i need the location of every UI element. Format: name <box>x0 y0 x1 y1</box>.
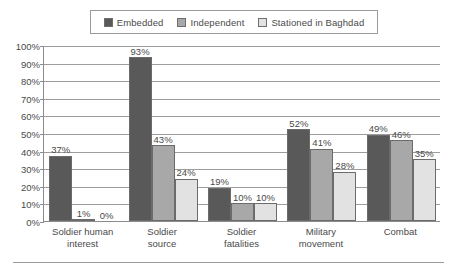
x-axis-category-label-line: Soldier <box>202 226 281 238</box>
x-axis-category-label-line: movement <box>281 238 360 250</box>
bar[interactable] <box>49 156 72 221</box>
y-axis-tick-label: 60% <box>0 111 40 122</box>
x-axis-category-label-line: Soldier human <box>43 226 122 238</box>
bar-value-label: 35% <box>415 149 434 159</box>
bar-value-label: 93% <box>131 47 150 57</box>
legend-item-embedded: Embedded <box>104 17 164 28</box>
bar[interactable] <box>333 172 356 221</box>
bar-slot: 10% <box>231 46 254 221</box>
bar-slot: 28% <box>333 46 356 221</box>
bar-value-label: 0% <box>100 211 114 221</box>
legend-item-stationed-in-baghdad: Stationed in Baghdad <box>258 17 364 28</box>
legend-swatch-icon <box>104 18 113 27</box>
bar-slot: 1% <box>72 46 95 221</box>
bar-group: 19%10%10% <box>203 46 282 221</box>
bar-slot: 35% <box>413 46 436 221</box>
plot-area: 37%1%0%93%43%24%19%10%10%52%41%28%49%46%… <box>43 46 440 222</box>
legend-swatch-icon <box>258 18 267 27</box>
x-axis-category-label: Combat <box>361 226 440 238</box>
bar-value-label: 37% <box>51 145 70 155</box>
bar-slot: 37% <box>49 46 72 221</box>
y-axis-tick-label: 0% <box>0 217 40 228</box>
footer-divider <box>13 262 444 263</box>
bar-slot: 46% <box>390 46 413 221</box>
bar-group: 37%1%0% <box>44 46 123 221</box>
bar-value-label: 43% <box>154 135 173 145</box>
chart-legend: Embedded Independent Stationed in Baghda… <box>90 10 378 34</box>
bar-slot: 24% <box>175 46 198 221</box>
bar[interactable] <box>287 129 310 221</box>
bar[interactable] <box>175 179 198 221</box>
legend-item-label: Independent <box>190 17 244 28</box>
y-axis-tick-label: 90% <box>0 58 40 69</box>
legend-item-label: Stationed in Baghdad <box>271 17 364 28</box>
bar-group: 52%41%28% <box>282 46 361 221</box>
bar-value-label: 46% <box>392 130 411 140</box>
bar[interactable] <box>129 57 152 221</box>
bar-slot: 41% <box>310 46 333 221</box>
bar-value-label: 10% <box>233 193 252 203</box>
bar-group: 49%46%35% <box>362 46 441 221</box>
bar-value-label: 19% <box>210 177 229 187</box>
x-axis-category-label-line: source <box>122 238 201 250</box>
bar-slot: 0% <box>95 46 118 221</box>
y-axis-tick-labels: 100%90%80%70%60%50%40%30%20%10%0% <box>0 40 40 222</box>
y-axis-tick-label: 70% <box>0 93 40 104</box>
bar-slot: 49% <box>367 46 390 221</box>
y-axis-tick-label: 80% <box>0 76 40 87</box>
legend-swatch-icon <box>177 18 186 27</box>
bar-value-label: 28% <box>335 161 354 171</box>
x-axis-category-label: Soldierfatalities <box>202 226 281 250</box>
bar-groups: 37%1%0%93%43%24%19%10%10%52%41%28%49%46%… <box>44 46 440 221</box>
x-axis-category-label-line: Combat <box>361 226 440 238</box>
bar-value-label: 1% <box>77 209 91 219</box>
bar[interactable] <box>231 203 254 221</box>
x-axis-category-label: Militarymovement <box>281 226 360 250</box>
legend-item-independent: Independent <box>177 17 244 28</box>
bar-value-label: 41% <box>312 138 331 148</box>
grouped-bar-chart: 100%90%80%70%60%50%40%30%20%10%0% 37%1%0… <box>0 40 457 230</box>
bar-slot: 43% <box>152 46 175 221</box>
legend-item-label: Embedded <box>117 17 164 28</box>
x-axis-category-label-line: Soldier <box>122 226 201 238</box>
bar[interactable] <box>367 135 390 221</box>
y-axis-tick-label: 100% <box>0 41 40 52</box>
y-axis-tick-label: 10% <box>0 199 40 210</box>
y-axis-tick-label: 50% <box>0 129 40 140</box>
bar-group: 93%43%24% <box>123 46 202 221</box>
y-axis-tick-label: 30% <box>0 164 40 175</box>
bar[interactable] <box>72 219 95 221</box>
bar-slot: 10% <box>254 46 277 221</box>
y-axis-tick-label: 40% <box>0 146 40 157</box>
bar-slot: 93% <box>129 46 152 221</box>
bar-slot: 19% <box>208 46 231 221</box>
bar[interactable] <box>413 159 436 221</box>
y-axis-tick-mark <box>40 222 44 223</box>
x-axis-category-label: Soldiersource <box>122 226 201 250</box>
y-axis-tick-label: 20% <box>0 181 40 192</box>
x-axis-category-label: Soldier humaninterest <box>43 226 122 250</box>
bar[interactable] <box>152 145 175 221</box>
bar[interactable] <box>390 140 413 221</box>
bar-value-label: 24% <box>177 168 196 178</box>
bar[interactable] <box>254 203 277 221</box>
x-axis-category-label-line: Military <box>281 226 360 238</box>
x-axis-category-label-line: fatalities <box>202 238 281 250</box>
bar-value-label: 49% <box>369 124 388 134</box>
x-axis-category-label-line: interest <box>43 238 122 250</box>
bar-value-label: 52% <box>289 119 308 129</box>
bar[interactable] <box>208 188 231 221</box>
bar-slot: 52% <box>287 46 310 221</box>
bar-value-label: 10% <box>256 193 275 203</box>
bar[interactable] <box>310 149 333 221</box>
x-axis-category-labels: Soldier humaninterestSoldiersourceSoldie… <box>43 226 440 256</box>
